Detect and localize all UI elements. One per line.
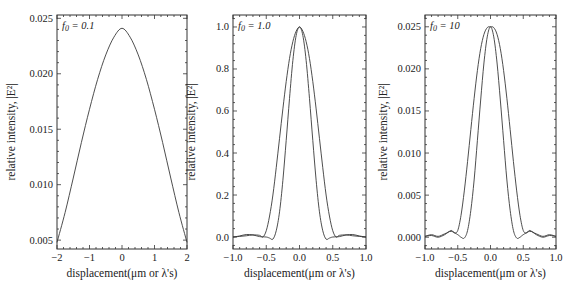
x-tick-label: 1 xyxy=(152,252,157,263)
y-tick-label: 0.010 xyxy=(397,148,421,159)
x-tick-label: −0.5 xyxy=(257,252,276,263)
x-tick-label: 0 xyxy=(119,252,124,263)
x-tick-label: 0.5 xyxy=(326,252,339,263)
panel-2: −1.0−0.50.00.51.00.00.20.40.60.81.0 f0 =… xyxy=(185,15,373,280)
axis-ticks: −2−10120.0050.0100.0150.0200.025 xyxy=(29,13,189,263)
x-tick-label: 0.5 xyxy=(517,252,530,263)
y-tick-label: 0.0 xyxy=(216,232,229,243)
curve-wide xyxy=(425,27,556,238)
y-tick-label: 0.015 xyxy=(397,105,421,116)
curves xyxy=(425,27,556,239)
y-tick-label: 0.005 xyxy=(29,235,53,246)
x-tick-label: 0.0 xyxy=(293,252,306,263)
annotation-f0: f0 = 1.0 xyxy=(238,20,271,33)
plot-frame xyxy=(57,15,187,249)
curve-narrow xyxy=(425,27,556,239)
curves xyxy=(233,27,366,240)
y-tick-label: 0.025 xyxy=(29,13,53,24)
y-tick-label: 0.000 xyxy=(397,232,421,243)
y-tick-label: 0.005 xyxy=(397,190,421,201)
curve-curve xyxy=(57,28,187,242)
x-axis-label: displacement(μm or λ's) xyxy=(435,267,546,280)
x-axis-label: displacement(μm or λ's) xyxy=(244,267,355,280)
panel-1: −2−10120.0050.0100.0150.0200.025 f0 = 0.… xyxy=(5,13,190,280)
curve-narrow xyxy=(233,27,366,240)
y-tick-label: 0.025 xyxy=(397,21,421,32)
x-tick-label: 2 xyxy=(184,252,189,263)
curve-wide xyxy=(233,27,366,237)
x-tick-label: 1.0 xyxy=(549,252,562,263)
x-tick-label: 0.0 xyxy=(484,252,497,263)
y-tick-label: 1.0 xyxy=(216,21,229,32)
y-tick-label: 0.010 xyxy=(29,179,53,190)
panel-3: −1.0−0.50.00.51.00.0000.0050.0100.0150.0… xyxy=(377,15,563,280)
y-axis-label: relative intensity, |E²| xyxy=(5,83,18,180)
annotation-f0: f0 = 0.1 xyxy=(62,20,94,33)
y-axis-label: relative intensity, |E²| xyxy=(377,83,390,180)
y-tick-label: 0.2 xyxy=(216,190,229,201)
y-tick-label: 0.8 xyxy=(216,63,229,74)
x-tick-label: 1.0 xyxy=(359,252,372,263)
y-tick-label: 0.020 xyxy=(397,63,421,74)
x-axis-label: displacement(μm or λ's) xyxy=(67,267,178,280)
annotation-f0: f0 = 10 xyxy=(430,20,461,33)
y-tick-label: 0.4 xyxy=(216,148,230,159)
plot-frame xyxy=(233,15,366,249)
plot-frame xyxy=(425,15,556,249)
x-tick-label: −1.0 xyxy=(223,252,242,263)
x-tick-label: −2 xyxy=(51,252,62,263)
x-tick-label: −1 xyxy=(84,252,95,263)
x-tick-label: −0.5 xyxy=(448,252,467,263)
y-tick-label: 0.6 xyxy=(216,105,229,116)
x-tick-label: −1.0 xyxy=(415,252,434,263)
figure: −2−10120.0050.0100.0150.0200.025 f0 = 0.… xyxy=(0,0,573,293)
y-tick-label: 0.020 xyxy=(29,68,53,79)
curves xyxy=(57,28,187,242)
y-axis-label: relative intensity, |E²| xyxy=(185,83,198,180)
y-tick-label: 0.015 xyxy=(29,124,53,135)
